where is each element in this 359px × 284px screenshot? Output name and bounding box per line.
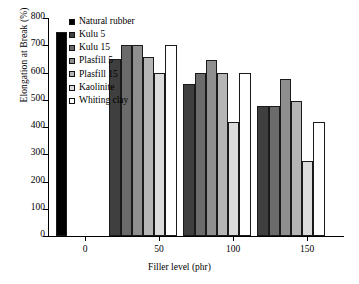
- legend-item-label: Kaolinite: [79, 83, 114, 93]
- bar: [313, 122, 324, 236]
- bar: [280, 79, 291, 236]
- x-tick: [233, 236, 234, 241]
- bar: [291, 101, 302, 236]
- legend-item-label: Plasfill 15: [79, 70, 118, 80]
- y-tick-label: 0: [40, 229, 45, 239]
- legend-swatch-icon: [69, 98, 75, 104]
- x-tick: [159, 236, 160, 241]
- y-axis-title: Elongation at Break (%): [19, 0, 29, 145]
- y-tick-label: 100: [31, 202, 45, 212]
- legend-item: Plasfill 15: [69, 68, 135, 81]
- bar: [143, 57, 154, 236]
- legend-item: Natural rubber: [69, 15, 135, 28]
- x-tick: [307, 236, 308, 241]
- legend-swatch-icon: [69, 45, 75, 51]
- y-tick-label: 600: [31, 66, 45, 76]
- y-tick-label: 300: [31, 147, 45, 157]
- y-tick-label: 700: [31, 38, 45, 48]
- x-tick-label: 150: [300, 244, 314, 254]
- x-tick-label: 100: [226, 244, 240, 254]
- chart-legend: Natural rubberKulu 5Kulu 15Plasfill 5Pla…: [69, 15, 135, 107]
- legend-item-label: Whiting clay: [79, 96, 128, 106]
- legend-item-label: Plasfill 5: [79, 56, 113, 66]
- bar: [239, 73, 250, 236]
- x-axis-title: Filler level (phr): [0, 262, 359, 272]
- legend-item: Whiting clay: [69, 94, 135, 107]
- bar: [217, 73, 228, 236]
- legend-item-label: Kulu 5: [79, 30, 105, 40]
- bar: [183, 84, 194, 236]
- bar: [302, 161, 313, 236]
- legend-swatch-icon: [69, 19, 75, 25]
- x-axis-line: [48, 236, 344, 237]
- legend-item: Kulu 15: [69, 41, 135, 54]
- chart-figure: Elongation at Break (%) 0100200300400500…: [0, 0, 359, 284]
- legend-item: Kaolinite: [69, 81, 135, 94]
- y-tick-label: 500: [31, 93, 45, 103]
- bar: [269, 106, 280, 236]
- legend-swatch-icon: [69, 85, 75, 91]
- legend-item: Kulu 5: [69, 28, 135, 41]
- bar: [206, 60, 217, 236]
- legend-swatch-icon: [69, 71, 75, 77]
- x-tick-label: 50: [154, 244, 164, 254]
- legend-item: Plasfill 5: [69, 55, 135, 68]
- legend-item-label: Kulu 15: [79, 43, 110, 53]
- bar: [228, 122, 239, 236]
- bar: [165, 45, 176, 236]
- y-tick-label: 800: [31, 11, 45, 21]
- bar: [56, 32, 67, 236]
- legend-swatch-icon: [69, 32, 75, 38]
- bar: [257, 106, 268, 236]
- bar: [154, 73, 165, 236]
- legend-swatch-icon: [69, 58, 75, 64]
- y-axis-line: [48, 18, 49, 236]
- x-tick-label: 0: [83, 244, 88, 254]
- bar: [195, 73, 206, 236]
- y-tick-label: 400: [31, 120, 45, 130]
- legend-item-label: Natural rubber: [79, 17, 135, 27]
- y-tick-label: 200: [31, 175, 45, 185]
- x-tick: [85, 236, 86, 241]
